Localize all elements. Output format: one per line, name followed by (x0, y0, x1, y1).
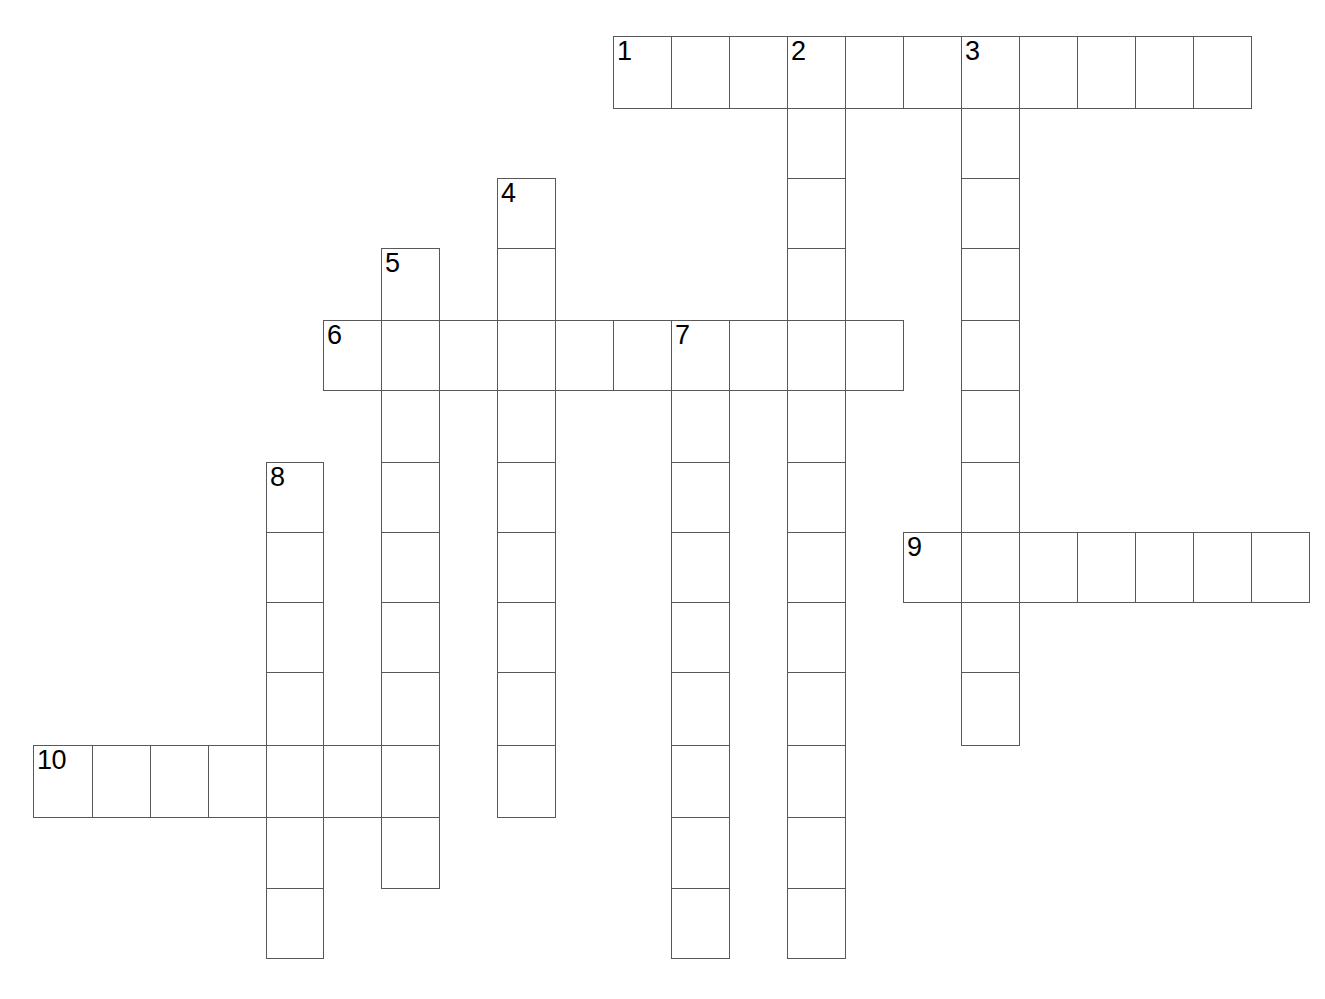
crossword-cell[interactable] (266, 602, 324, 673)
crossword-cell[interactable] (787, 178, 846, 249)
crossword-cell[interactable] (497, 462, 556, 533)
crossword-cell[interactable] (671, 390, 730, 463)
crossword-cell[interactable] (961, 672, 1020, 746)
crossword-cell[interactable] (671, 532, 730, 603)
crossword-cell-start-10[interactable]: 10 (33, 745, 93, 818)
crossword-cell[interactable] (497, 390, 556, 463)
crossword-cell-start-5[interactable]: 5 (381, 248, 440, 321)
crossword-cell[interactable] (903, 36, 962, 109)
crossword-cell[interactable] (497, 745, 556, 818)
crossword-cell[interactable] (845, 320, 904, 391)
crossword-cell-start-2[interactable]: 2 (787, 36, 846, 109)
crossword-cell[interactable] (845, 36, 904, 109)
cell-number-7: 7 (675, 320, 690, 351)
crossword-cell[interactable] (208, 745, 267, 818)
crossword-cell[interactable] (729, 36, 788, 109)
crossword-cell[interactable] (497, 320, 556, 391)
crossword-cell[interactable] (266, 817, 324, 889)
crossword-cell[interactable] (787, 602, 846, 673)
cell-number-8: 8 (270, 462, 285, 493)
crossword-cell[interactable] (1135, 36, 1194, 109)
crossword-cell[interactable] (787, 462, 846, 533)
crossword-cell-start-3[interactable]: 3 (961, 36, 1020, 109)
crossword-cell[interactable] (381, 745, 440, 818)
crossword-cell-start-8[interactable]: 8 (266, 462, 324, 533)
cell-number-6: 6 (327, 320, 342, 351)
crossword-cell[interactable] (1019, 532, 1078, 603)
crossword-cell[interactable] (961, 320, 1020, 391)
cell-number-4: 4 (501, 178, 516, 209)
crossword-cell[interactable] (787, 888, 846, 959)
crossword-cell-start-4[interactable]: 4 (497, 178, 556, 249)
crossword-cell[interactable] (381, 390, 440, 463)
crossword-cell[interactable] (961, 462, 1020, 533)
crossword-cell[interactable] (787, 390, 846, 463)
cell-number-1: 1 (617, 36, 632, 67)
crossword-cell-start-1[interactable]: 1 (613, 36, 672, 109)
crossword-cell[interactable] (787, 817, 846, 889)
crossword-cell-start-6[interactable]: 6 (323, 320, 382, 391)
crossword-cell[interactable] (497, 602, 556, 673)
crossword-cell[interactable] (1077, 532, 1136, 603)
crossword-cell[interactable] (729, 320, 788, 391)
crossword-cell[interactable] (787, 108, 846, 179)
crossword-cell[interactable] (381, 817, 440, 889)
crossword-cell[interactable] (961, 390, 1020, 463)
crossword-cell[interactable] (1251, 532, 1310, 603)
crossword-cell[interactable] (497, 532, 556, 603)
crossword-cell[interactable] (671, 888, 730, 959)
crossword-cell[interactable] (381, 602, 440, 673)
crossword-cell[interactable] (671, 672, 730, 746)
crossword-cell[interactable] (1077, 36, 1136, 109)
crossword-cell[interactable] (787, 320, 846, 391)
cell-number-5: 5 (385, 248, 400, 279)
cell-number-10: 10 (37, 745, 66, 776)
crossword-cell-start-9[interactable]: 9 (903, 532, 962, 603)
crossword-cell[interactable] (787, 672, 846, 746)
crossword-cell[interactable] (381, 672, 440, 746)
crossword-cell[interactable] (671, 817, 730, 889)
crossword-cell[interactable] (266, 745, 324, 818)
cell-number-9: 9 (907, 532, 922, 563)
crossword-cell[interactable] (1019, 36, 1078, 109)
crossword-cell[interactable] (92, 745, 151, 818)
crossword-cell[interactable] (323, 745, 382, 818)
crossword-cell[interactable] (1193, 532, 1252, 603)
crossword-cell[interactable] (787, 532, 846, 603)
crossword-cell-start-7[interactable]: 7 (671, 320, 730, 391)
crossword-cell[interactable] (381, 532, 440, 603)
crossword-cell[interactable] (961, 602, 1020, 673)
cell-number-2: 2 (791, 36, 806, 67)
crossword-cell[interactable] (266, 888, 324, 959)
crossword-cell[interactable] (961, 532, 1020, 603)
crossword-cell[interactable] (266, 672, 324, 746)
crossword-cell[interactable] (961, 108, 1020, 179)
crossword-cell[interactable] (555, 320, 614, 391)
crossword-cell[interactable] (497, 672, 556, 746)
crossword-cell[interactable] (497, 248, 556, 321)
cell-number-3: 3 (965, 36, 980, 67)
crossword-cell[interactable] (961, 248, 1020, 321)
crossword-cell[interactable] (439, 320, 498, 391)
crossword-cell[interactable] (671, 462, 730, 533)
crossword-cell[interactable] (787, 248, 846, 321)
crossword-cell[interactable] (150, 745, 209, 818)
crossword-cell[interactable] (671, 36, 730, 109)
crossword-grid: 10172938654 (0, 0, 1325, 999)
crossword-cell[interactable] (787, 745, 846, 818)
crossword-cell[interactable] (961, 178, 1020, 249)
crossword-cell[interactable] (613, 320, 672, 391)
crossword-cell[interactable] (381, 320, 440, 391)
crossword-cell[interactable] (671, 602, 730, 673)
crossword-cell[interactable] (1193, 36, 1252, 109)
crossword-cell[interactable] (671, 745, 730, 818)
crossword-cell[interactable] (381, 462, 440, 533)
crossword-cell[interactable] (1135, 532, 1194, 603)
crossword-cell[interactable] (266, 532, 324, 603)
